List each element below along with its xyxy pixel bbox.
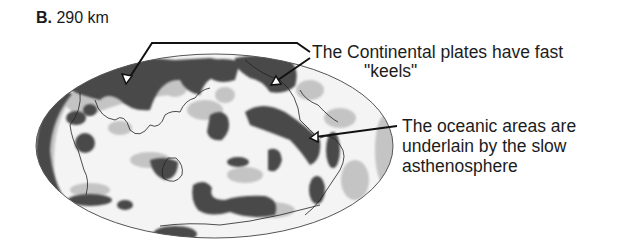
oceanic-annotation-line3: asthenosphere xyxy=(402,156,576,176)
continental-annotation-line1: The Continental plates have fast xyxy=(312,42,563,62)
velocity-anomaly-field xyxy=(36,54,395,242)
oceanic-annotation-line2: underlain by the slow xyxy=(402,136,576,156)
continental-annotation-line2: "keels" xyxy=(364,61,417,81)
oceanic-annotation-line1: The oceanic areas are xyxy=(402,116,576,136)
oceanic-annotation: The oceanic areas are underlain by the s… xyxy=(402,116,576,176)
